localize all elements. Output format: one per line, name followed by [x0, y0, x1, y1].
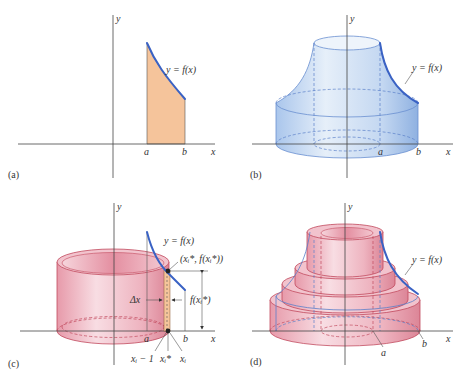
panel-caption: (d) — [250, 356, 262, 368]
point-label: (xᵢ*, f(xᵢ*)) — [180, 253, 224, 265]
b-label: b — [182, 146, 187, 157]
curve-label: y = f(x) — [411, 62, 443, 74]
y-axis-label: y — [347, 201, 353, 212]
x-i-label: xᵢ — [179, 353, 186, 364]
y-axis-label: y — [115, 13, 121, 24]
b-label: b — [422, 338, 427, 349]
base-point — [166, 329, 171, 334]
x-star-label: xᵢ* — [159, 353, 171, 364]
y-axis-label: y — [116, 201, 122, 212]
a-label: a — [144, 333, 149, 344]
panel-caption: (c) — [8, 358, 19, 370]
curve-label: y = f(x) — [411, 254, 443, 266]
x-prev-label: xᵢ − 1 — [130, 353, 154, 364]
curve-label: y = f(x) — [165, 64, 197, 76]
x-axis-label: x — [210, 333, 216, 344]
height-label: f(xᵢ*) — [190, 294, 211, 306]
x-axis-label: x — [445, 146, 451, 157]
a-label: a — [378, 146, 383, 157]
delta-x-label: Δx — [129, 294, 141, 305]
b-label: b — [183, 333, 188, 344]
panel-b: y y = f(x) a b x (b) — [250, 13, 453, 181]
shell-method-figure: y y = f(x) a b x (a) y y = f(x) a b x (b… — [0, 0, 470, 382]
x-axis-label: x — [445, 333, 451, 344]
x-axis-label: x — [210, 146, 216, 157]
panel-caption: (a) — [8, 169, 19, 181]
curve-label: y = f(x) — [163, 235, 195, 247]
panel-a: y y = f(x) a b x (a) — [8, 13, 216, 181]
panel-c: y y = f(x) (xᵢ*, f(xᵢ*)) Δx f(xᵢ*) a b x… — [8, 201, 224, 370]
y-axis-label: y — [349, 13, 355, 24]
a-label: a — [381, 347, 386, 358]
a-label: a — [144, 146, 149, 157]
panel-caption: (b) — [250, 169, 262, 181]
b-label: b — [416, 146, 421, 157]
panel-d: y y = f(x) a b x (d) — [250, 201, 453, 368]
